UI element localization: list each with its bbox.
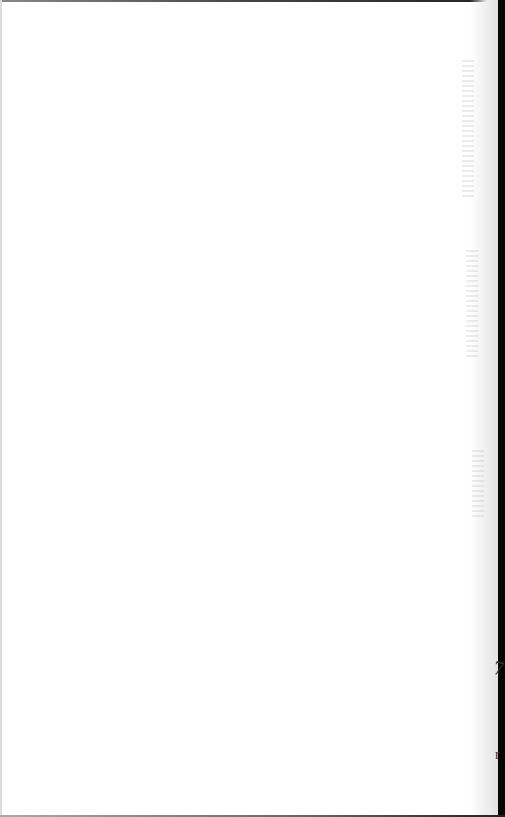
- bleed-through-text: [462, 60, 474, 200]
- binding-edge: [498, 0, 505, 817]
- edge-glyph: r: [495, 748, 500, 762]
- page-gutter-shadow: [470, 0, 498, 817]
- bleed-through-text: [466, 250, 478, 360]
- document-page: [0, 0, 500, 817]
- page-top-edge: [0, 0, 505, 2]
- page-left-edge: [0, 0, 2, 817]
- bleed-through-text: [472, 450, 484, 520]
